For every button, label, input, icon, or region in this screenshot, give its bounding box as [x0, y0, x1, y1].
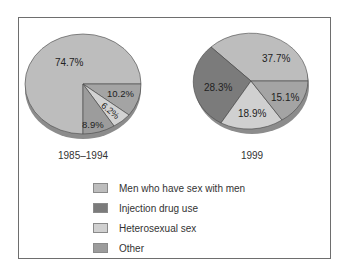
- legend-label: Other: [119, 243, 144, 254]
- label-hetero: 18.9%: [238, 108, 266, 119]
- legend-swatch: [93, 203, 108, 213]
- pie-title-1999: 1999: [192, 150, 312, 161]
- label-msm: 74.7%: [55, 57, 83, 68]
- label-other: 15.1%: [271, 92, 299, 103]
- pie-1985-1994: 74.7% 10.2% 6.2% 8.9%: [25, 34, 141, 139]
- legend-label: Men who have sex with men: [119, 183, 245, 194]
- legend-item-hetero: Heterosexual sex: [93, 218, 245, 238]
- pie-title-1985-1994: 1985–1994: [23, 150, 143, 161]
- legend-swatch: [93, 183, 108, 193]
- pie-1999: 37.7% 28.3% 18.9% 15.1%: [193, 33, 309, 134]
- legend-swatch: [93, 243, 108, 253]
- legend-label: Heterosexual sex: [119, 223, 196, 234]
- label-other: 8.9%: [82, 119, 104, 130]
- legend-item-other: Other: [93, 238, 245, 258]
- label-idu: 28.3%: [204, 82, 232, 93]
- legend-item-idu: Injection drug use: [93, 198, 245, 218]
- legend: Men who have sex with men Injection drug…: [93, 178, 245, 258]
- legend-label: Injection drug use: [119, 203, 198, 214]
- label-idu: 10.2%: [107, 88, 134, 99]
- legend-swatch: [93, 223, 108, 233]
- label-msm: 37.7%: [262, 53, 290, 64]
- legend-item-msm: Men who have sex with men: [93, 178, 245, 198]
